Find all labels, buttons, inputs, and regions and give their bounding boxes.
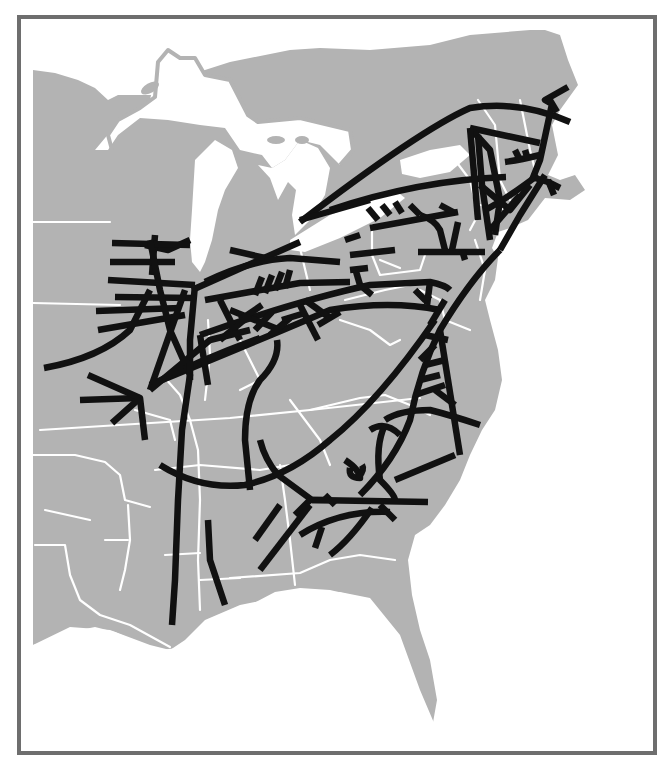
island-1 [267, 136, 285, 144]
railroad-map [0, 0, 672, 774]
island-2 [295, 136, 309, 144]
